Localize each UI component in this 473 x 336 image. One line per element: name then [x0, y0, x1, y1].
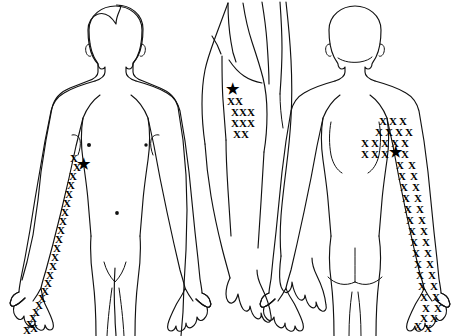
anterior-figure: ★ X X X X X X X X X X X X X X X X X X: [10, 5, 211, 336]
anterior-legs-outline: [91, 236, 141, 336]
anterior-umbilicus-dot: [115, 211, 119, 215]
svg-text:X: X: [414, 320, 422, 332]
posterior-left-scapula-line: [330, 122, 343, 173]
posterior-star-mark: ★: [389, 144, 403, 160]
anterior-head-outline: [89, 6, 142, 81]
lateral-hip-outline: [226, 140, 264, 248]
lateral-arm-outer: [202, 3, 228, 144]
posterior-gluteal-fold-right: [355, 277, 382, 284]
anterior-right-nipple-dot: [144, 143, 147, 146]
svg-text:X: X: [424, 322, 432, 334]
posterior-hairline: [338, 57, 372, 62]
posterior-inner-thigh-left: [349, 292, 352, 336]
posterior-left-arm-inner: [286, 95, 340, 288]
body-chart-svg: ★ X X X X X X X X X X X X X X X X X X: [0, 0, 473, 336]
posterior-left-hand: [260, 288, 303, 331]
svg-text:X: X: [30, 322, 38, 334]
svg-text:X: X: [361, 148, 369, 160]
anterior-right-arm-inner: [131, 95, 185, 288]
anterior-torso-left-side: [82, 118, 92, 236]
anterior-inner-thigh-left: [107, 288, 112, 336]
lateral-arm-inner: [228, 3, 236, 62]
lateral-axilla-fold: [229, 60, 262, 83]
lateral-far-arm: [280, 2, 292, 256]
anterior-torso-right-side: [140, 118, 150, 236]
posterior-gluteal-fold-left: [328, 277, 355, 284]
svg-text:X: X: [23, 324, 31, 336]
lateral-flank-line: [222, 56, 226, 140]
anterior-right-hand: [168, 288, 211, 331]
posterior-figure: X X X X X X X X X X X X X X X X ★ X: [260, 6, 450, 336]
lateral-far-elbow-line: [280, 94, 283, 128]
posterior-head-outline: [329, 6, 381, 81]
svg-text:X: X: [233, 128, 241, 140]
lateral-elbow-crease: [212, 36, 221, 54]
lateral-torso-back: [262, 2, 269, 84]
anterior-left-nipple-dot: [87, 143, 91, 147]
lateral-lesion-marks: X X X X X X X X X X: [227, 95, 255, 140]
svg-text:X: X: [241, 128, 249, 140]
body-chart-root: ★ X X X X X X X X X X X X X X X X X X: [0, 0, 473, 336]
anterior-inner-thigh-right: [119, 288, 124, 336]
lateral-figure: ★ X X X X X X X X X X: [202, 2, 326, 322]
anterior-lesion-marks: X X X X X X X X X X X X X X X X X X X X: [23, 152, 81, 336]
svg-text:X: X: [371, 148, 379, 160]
posterior-inner-thigh-right: [358, 292, 361, 336]
